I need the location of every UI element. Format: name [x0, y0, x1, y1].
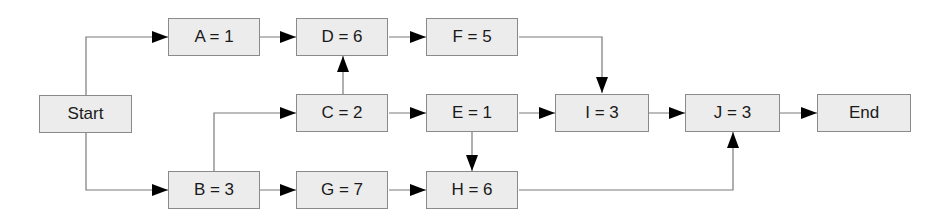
edge-h-j: [519, 132, 733, 190]
node-label: Start: [68, 104, 104, 124]
node-label: E = 1: [452, 103, 492, 123]
node-i: I = 3: [555, 94, 649, 132]
node-j: J = 3: [685, 94, 780, 132]
node-e: E = 1: [426, 94, 518, 132]
node-label: I = 3: [585, 103, 619, 123]
node-start: Start: [39, 95, 132, 133]
project-network-diagram: Start A = 1 B = 3 C = 2 D = 6 E = 1 F = …: [0, 0, 946, 224]
node-label: B = 3: [194, 180, 234, 200]
node-label: F = 5: [452, 27, 491, 47]
node-d: D = 6: [296, 18, 388, 56]
node-label: J = 3: [714, 103, 751, 123]
node-label: End: [849, 103, 879, 123]
edge-start-b: [86, 133, 168, 190]
node-g: G = 7: [296, 171, 388, 209]
node-label: G = 7: [321, 180, 363, 200]
node-a: A = 1: [168, 18, 260, 56]
edge-f-i: [519, 37, 602, 93]
node-label: A = 1: [194, 27, 233, 47]
node-b: B = 3: [168, 171, 260, 209]
node-h: H = 6: [426, 171, 518, 209]
node-end: End: [817, 94, 911, 132]
edge-start-a: [86, 37, 168, 95]
node-label: C = 2: [321, 103, 362, 123]
node-f: F = 5: [426, 18, 518, 56]
node-c: C = 2: [296, 94, 388, 132]
edge-b-c: [214, 113, 296, 171]
node-label: H = 6: [451, 180, 492, 200]
node-label: D = 6: [321, 27, 362, 47]
